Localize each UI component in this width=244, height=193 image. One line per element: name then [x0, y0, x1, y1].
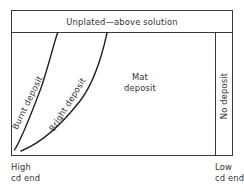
high-cd-end-label-line1: High — [11, 162, 31, 172]
unplated-band-label: Unplated—above solution — [66, 17, 177, 27]
low-cd-end-label-line2: cd end — [215, 173, 244, 183]
high-cd-end-label-line2: cd end — [11, 173, 40, 183]
low-cd-end-label-line1: Low — [215, 162, 232, 172]
deposit-regime-diagram: Unplated—above solution Burnt deposit Br… — [0, 0, 244, 193]
diagram-canvas: Unplated—above solution Burnt deposit Br… — [0, 0, 244, 193]
mat-deposit-label-line2: deposit — [124, 83, 156, 93]
bright-deposit-label: Bright deposit — [47, 75, 88, 133]
mat-deposit-label-line1: Mat — [132, 72, 149, 82]
no-deposit-label: No deposit — [219, 72, 229, 119]
